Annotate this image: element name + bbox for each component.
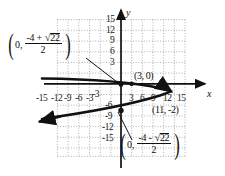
y-tick--9: -9 xyxy=(105,112,112,122)
radical-upper: √22 xyxy=(44,32,60,43)
y-tick-15: 15 xyxy=(106,15,115,25)
fraction-denominator-upper: 2 xyxy=(41,44,46,55)
x-tick--9: -9 xyxy=(64,94,71,104)
y-tick--3: -3 xyxy=(92,90,99,100)
y-tick-3: 3 xyxy=(110,58,114,68)
x-tick-12: 12 xyxy=(163,94,172,104)
x-tick-3: 3 xyxy=(129,94,133,104)
point-dot-y-intercept-lower xyxy=(118,108,123,113)
fraction-numerator-upper: -4 + √22 xyxy=(25,32,62,43)
numerator-sign-upper: -4 + xyxy=(27,32,42,43)
y-tick-9: 9 xyxy=(110,36,114,46)
x-tick-6: 6 xyxy=(140,94,144,104)
x-tick-15: 15 xyxy=(177,94,186,104)
close-paren-upper: ) xyxy=(65,33,71,55)
point-dot-y-intercept-upper xyxy=(119,82,124,87)
y-tick--6: -6 xyxy=(105,101,112,111)
x-tick--12: -12 xyxy=(51,94,62,104)
graph-figure: x y -15 -12 -9 -6 -3 3 6 9 12 15 15 12 9… xyxy=(0,0,225,176)
numerator-sign-lower: -4 - xyxy=(139,132,152,143)
radicand-upper: 22 xyxy=(50,32,59,43)
x-tick-9: 9 xyxy=(151,94,155,104)
y-axis-label: y xyxy=(126,8,130,18)
radicand-lower: 22 xyxy=(160,132,169,143)
radical-lower: √22 xyxy=(154,132,170,143)
point-dot-x-intercept xyxy=(129,81,134,86)
fraction-numerator-lower: -4 - √22 xyxy=(137,132,172,143)
y-tick--12: -12 xyxy=(102,123,113,133)
x-axis-label: x xyxy=(207,89,211,99)
fraction-lower: -4 - √22 2 xyxy=(137,132,172,155)
open-paren-lower: ( xyxy=(120,133,126,155)
y-intercept-lower-label: ( 0, -4 - √22 2 ) xyxy=(118,132,182,155)
zero-coordinate-lower: 0, xyxy=(127,137,135,150)
fraction-upper: -4 + √22 2 xyxy=(25,32,62,55)
y-tick-6: 6 xyxy=(110,47,114,57)
y-intercept-upper-label: ( 0, -4 + √22 2 ) xyxy=(6,32,73,55)
close-paren-lower: ) xyxy=(175,133,181,155)
fraction-denominator-lower: 2 xyxy=(151,144,156,155)
y-tick--15: -15 xyxy=(102,134,113,144)
point-label-x-intercept: (3, 0) xyxy=(134,71,153,81)
x-tick--15: -15 xyxy=(36,94,47,104)
point-label-vertex: (11, -2) xyxy=(152,105,178,115)
zero-coordinate-upper: 0, xyxy=(15,37,23,50)
x-tick--6: -6 xyxy=(75,94,82,104)
open-paren-upper: ( xyxy=(8,33,14,55)
